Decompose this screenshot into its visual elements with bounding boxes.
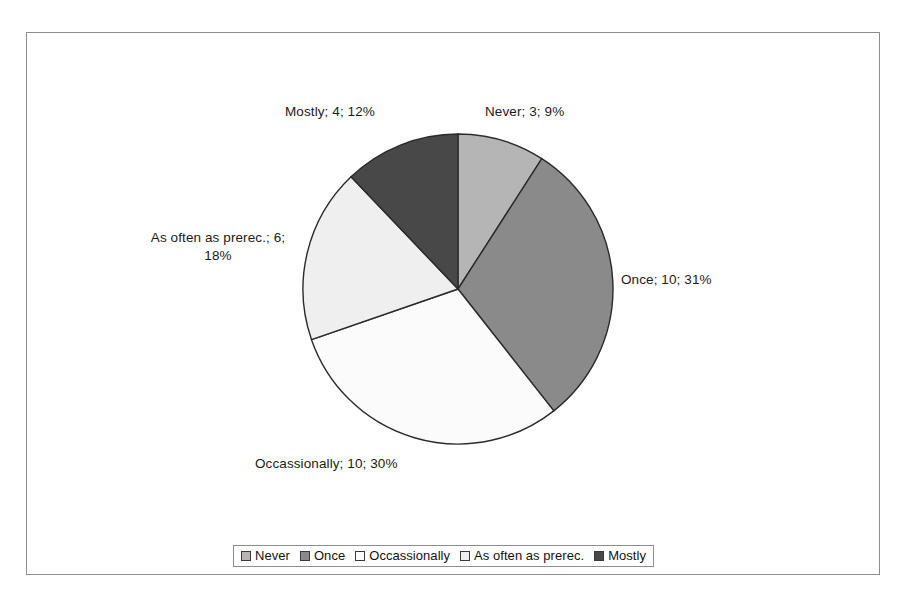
legend-swatch-icon [241, 551, 251, 561]
slice-label-as-often-line2: 18% [204, 248, 231, 263]
slice-label-occassionally: Occassionally; 10; 30% [255, 455, 398, 473]
legend-item-label: Occassionally [369, 548, 450, 563]
slice-label-as-often-line1: As often as prerec.; 6; [151, 230, 285, 245]
legend-swatch-icon [594, 551, 604, 561]
pie-chart-plot-area: Never; 3; 9% Once; 10; 31% Occassionally… [27, 33, 881, 576]
legend-item-label: Once [314, 548, 345, 563]
chart-frame: Never; 3; 9% Once; 10; 31% Occassionally… [26, 32, 880, 575]
chart-legend: NeverOnceOccassionallyAs often as prerec… [233, 545, 654, 567]
legend-item[interactable]: Once [300, 548, 345, 563]
legend-swatch-icon [460, 551, 470, 561]
slice-label-once: Once; 10; 31% [621, 271, 712, 289]
legend-item-label: As often as prerec. [474, 548, 584, 563]
legend-item[interactable]: Never [241, 548, 290, 563]
slice-label-never: Never; 3; 9% [485, 103, 564, 121]
legend-item[interactable]: Occassionally [355, 548, 450, 563]
legend-item[interactable]: Mostly [594, 548, 646, 563]
pie-slice-group [303, 134, 613, 444]
legend-item[interactable]: As often as prerec. [460, 548, 584, 563]
legend-swatch-icon [355, 551, 365, 561]
legend-item-label: Never [255, 548, 290, 563]
legend-item-label: Mostly [608, 548, 646, 563]
pie-chart-graphic [27, 33, 881, 576]
slice-label-mostly: Mostly; 4; 12% [285, 103, 375, 121]
slice-label-as-often-as-prerec: As often as prerec.; 6;18% [133, 229, 303, 265]
legend-swatch-icon [300, 551, 310, 561]
